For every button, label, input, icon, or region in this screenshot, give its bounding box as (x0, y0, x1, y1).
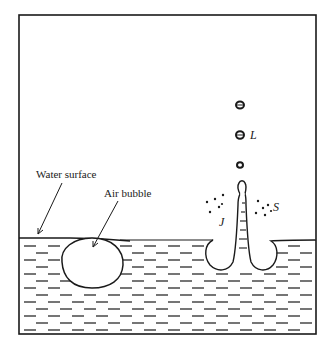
jet-tip (238, 181, 246, 194)
label-droplets: L (249, 128, 257, 142)
droplet-3 (237, 162, 243, 168)
bubble-bursting-diagram: Water surface Air bubble L S J (0, 0, 334, 349)
label-jet: J (219, 215, 225, 229)
label-air-bubble: Air bubble (104, 187, 151, 199)
air-bubble (62, 238, 123, 288)
water-surface-line-mid (120, 234, 224, 240)
crater-right-wall (245, 194, 316, 270)
water-surface-line (19, 238, 130, 241)
crater-left-wall (206, 194, 240, 270)
water-surface-pointer (38, 183, 62, 234)
label-water-surface: Water surface (36, 168, 97, 180)
label-spray: S (273, 200, 279, 214)
